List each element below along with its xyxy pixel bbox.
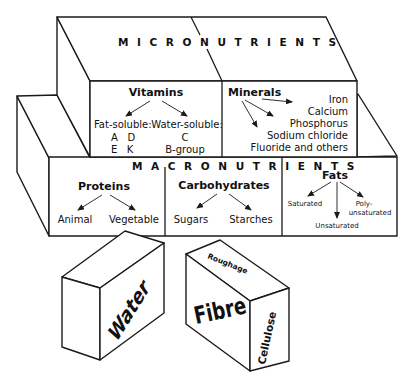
mineral-item: Calcium	[308, 106, 348, 117]
poly-label-1: Poly-	[356, 200, 373, 208]
carbohydrate-item: Sugars	[174, 214, 208, 225]
water-soluble-row1: C	[182, 132, 189, 143]
water-soluble-label: Water-soluble:	[151, 119, 223, 130]
water-front-face	[62, 277, 100, 360]
mineral-item: Iron	[329, 94, 348, 105]
micronutrients-label: MICRONUTRIENTS	[118, 36, 345, 48]
fat-soluble-row2: E K	[111, 144, 134, 155]
mineral-item: Sodium chloride	[267, 130, 348, 141]
water-block: Water	[62, 231, 164, 360]
unsaturated-label: Unsaturated	[315, 222, 358, 230]
poly-label-2: unsaturated	[349, 209, 392, 217]
water-soluble-row2: B-group	[165, 144, 205, 155]
proteins-title: Proteins	[78, 180, 130, 193]
fibre-block: Roughage Fibre Cellulose	[186, 240, 289, 371]
carbohydrates-title: Carbohydrates	[178, 179, 270, 192]
protein-item: Vegetable	[109, 214, 159, 225]
vitamins-title: Vitamins	[129, 86, 184, 99]
macro-top-right-face	[357, 94, 397, 157]
nutrients-diagram: MICRONUTRIENTS Vitamins Fat-soluble: A D…	[0, 0, 413, 385]
carbohydrate-item: Starches	[229, 214, 273, 225]
mineral-item: Fluoride and others	[251, 142, 348, 153]
fat-soluble-label: Fat-soluble:	[94, 119, 152, 130]
minerals-title: Minerals	[228, 86, 282, 99]
mineral-item: Phosphorus	[290, 118, 348, 129]
protein-item: Animal	[58, 214, 93, 225]
fats-title: Fats	[322, 169, 349, 182]
fat-soluble-row1: A D	[111, 132, 135, 143]
saturated-label: Saturated	[288, 200, 323, 208]
